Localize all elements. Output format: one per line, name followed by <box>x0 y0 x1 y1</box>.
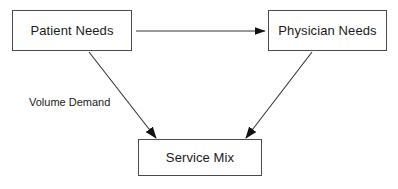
node-physician-needs-label: Physician Needs <box>278 24 376 37</box>
edge-label-volume-demand: Volume Demand <box>29 97 110 108</box>
node-service-mix: Service Mix <box>138 139 262 176</box>
node-patient-needs: Patient Needs <box>12 10 132 51</box>
diagram-canvas: Patient Needs Physician Needs Service Mi… <box>0 0 398 189</box>
node-patient-needs-label: Patient Needs <box>31 24 114 37</box>
node-service-mix-label: Service Mix <box>166 151 234 164</box>
edge-physician-to-service-mix <box>246 52 312 138</box>
node-physician-needs: Physician Needs <box>268 10 387 51</box>
edge-patient-to-service-mix <box>89 52 156 138</box>
